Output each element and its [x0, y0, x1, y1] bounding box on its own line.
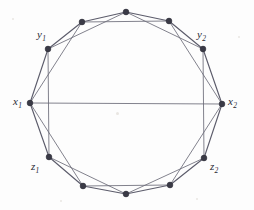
vertex-label-subscript: 1: [36, 166, 40, 175]
vertex-label-subscript: 2: [233, 101, 237, 110]
vertex-label-subscript: 1: [42, 34, 46, 43]
vertex-label-y2: y2: [197, 29, 206, 40]
vertex-label-z2: z2: [210, 161, 218, 172]
graph-vertex-y1: [45, 46, 51, 52]
graph-edge-cycle: [126, 12, 169, 21]
graph-vertex-unlabeled: [167, 182, 173, 188]
graph-edge-chord: [169, 21, 222, 104]
diameter-edge-group: [30, 103, 222, 104]
graph-vertex-x2: [219, 101, 225, 107]
graph-edge-chord: [126, 158, 204, 194]
graph-vertex-unlabeled: [79, 19, 85, 25]
graph-edge-chord: [49, 157, 126, 194]
graph-edge-diameter: [30, 103, 222, 104]
vertex-label-y1: y1: [37, 29, 46, 40]
graph-edge-cycle: [203, 49, 222, 104]
vertex-label-x2: x2: [228, 96, 237, 107]
vertex-label-subscript: 2: [215, 166, 219, 175]
graph-edge-cycle: [126, 185, 170, 194]
vertex-label-base: z: [210, 160, 214, 172]
vertex-label-x1: x1: [13, 96, 22, 107]
graph-edge-chord: [126, 12, 203, 49]
graph-edge-cycle: [30, 103, 49, 157]
graph-vertex-z1: [46, 154, 52, 160]
graph-vertex-x1: [27, 100, 33, 106]
graph-figure: x1y1y2x2z2z1: [0, 0, 254, 210]
vertex-label-subscript: 1: [18, 101, 22, 110]
graph-vertex-unlabeled: [123, 9, 129, 15]
vertex-label-z1: z1: [31, 161, 39, 172]
graph-edge-chord: [48, 12, 126, 49]
graph-vertex-y2: [200, 46, 206, 52]
graph-edge-cycle: [83, 186, 126, 194]
vertex-label-base: z: [31, 160, 35, 172]
graph-vertex-unlabeled: [123, 191, 129, 197]
graph-edge-cycle: [204, 104, 222, 158]
graph-vertex-unlabeled: [80, 183, 86, 189]
graph-vertex-unlabeled: [166, 18, 172, 24]
graph-edge-chord: [83, 185, 170, 186]
graph-edge-cycle: [82, 12, 126, 22]
graph-edge-chord: [82, 21, 169, 22]
graph-edge-cycle: [30, 49, 48, 103]
graph-vertex-z2: [201, 155, 207, 161]
vertex-label-subscript: 2: [202, 34, 206, 43]
graph-edge-cycle: [49, 157, 83, 186]
